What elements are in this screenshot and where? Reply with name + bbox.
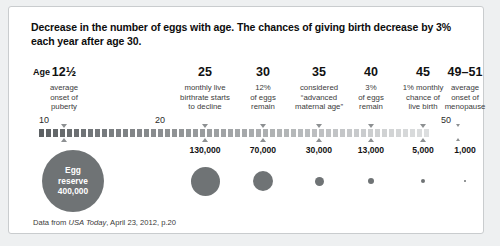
timeline-axis [39, 129, 431, 137]
axis-dash [305, 129, 310, 137]
axis-dash [193, 129, 198, 137]
axis-marker-up [368, 138, 374, 142]
source-prefix: Data from [33, 218, 68, 227]
axis-dash [60, 129, 65, 137]
axis-dash [403, 129, 408, 137]
age-caption: 3%of eggsremain [345, 83, 397, 112]
axis-dash [109, 129, 114, 137]
axis-marker-down [202, 124, 208, 128]
axis-marker-up [61, 138, 67, 142]
axis-dash [67, 129, 72, 137]
axis-dash [333, 129, 338, 137]
axis-marker-down [260, 124, 266, 128]
axis-dash [172, 129, 177, 137]
caption-line: 3% [345, 83, 397, 93]
egg-reserve-line2: reserve [58, 176, 88, 187]
axis-dash [382, 129, 387, 137]
axis-dash [340, 129, 345, 137]
axis-tick-label: 20 [155, 115, 165, 125]
axis-dash [130, 129, 135, 137]
axis-dash [151, 129, 156, 137]
age-value: 49–51 [434, 65, 496, 79]
axis-dash [74, 129, 79, 137]
egg-count-bubble [191, 167, 220, 196]
axis-dash [165, 129, 170, 137]
axis-marker-up [316, 138, 322, 142]
axis-dash [389, 129, 394, 137]
age-column: 25monthly livebirthrate startsto decline [164, 65, 246, 112]
axis-dash [116, 129, 121, 137]
age-column: 403%of eggsremain [345, 65, 397, 112]
axis-dash [410, 129, 415, 137]
axis-marker-down [368, 124, 374, 128]
axis-dash [158, 129, 163, 137]
egg-count-bubble [368, 178, 374, 184]
axis-dash [298, 129, 303, 137]
egg-count-value: 1,000 [430, 145, 500, 155]
caption-line: remain [345, 102, 397, 112]
axis-dash [424, 129, 429, 137]
caption-line: monthly live [164, 83, 246, 93]
axis-dash [46, 129, 51, 137]
caption-line: onset of [434, 93, 496, 103]
axis-dash [81, 129, 86, 137]
axis-dash [39, 129, 44, 137]
caption-line: onset of [31, 93, 97, 103]
egg-reserve-bubble: Egg reserve 400,000 [42, 150, 104, 212]
age-column: 49–51averageonset ofmenopause [434, 65, 496, 112]
egg-reserve-line3: 400,000 [58, 186, 88, 197]
axis-dash [102, 129, 107, 137]
infographic-card: Decrease in the number of eggs with age.… [8, 6, 484, 234]
axis-dash [326, 129, 331, 137]
axis-tick-label: 50 [441, 115, 451, 125]
caption-line: puberty [31, 102, 97, 112]
axis-marker-down [420, 124, 426, 128]
axis-dash [291, 129, 296, 137]
caption-line: menopause [434, 102, 496, 112]
axis-dash [137, 129, 142, 137]
age-column: 12½averageonset ofpuberty [31, 65, 97, 112]
axis-dash [123, 129, 128, 137]
axis-marker-up [260, 138, 266, 142]
axis-dash [284, 129, 289, 137]
axis-tick-label: 10 [39, 115, 49, 125]
axis-dash [347, 129, 352, 137]
axis-marker-down [316, 124, 322, 128]
axis-dash [221, 129, 226, 137]
axis-dash [235, 129, 240, 137]
axis-dash [228, 129, 233, 137]
age-caption: monthly livebirthrate startsto decline [164, 83, 246, 112]
caption-line: birthrate starts [164, 93, 246, 103]
axis-dash [354, 129, 359, 137]
axis-marker-up [420, 138, 426, 142]
egg-count-bubble [253, 171, 273, 191]
axis-dash [88, 129, 93, 137]
age-caption: averageonset ofpuberty [31, 83, 97, 112]
caption-line: to decline [164, 102, 246, 112]
axis-dash [375, 129, 380, 137]
source-note: Data from USA Today, April 23, 2012, p.2… [33, 218, 176, 227]
egg-reserve-line1: Egg [65, 165, 81, 176]
axis-dash [95, 129, 100, 137]
age-value: 12½ [31, 65, 97, 79]
axis-dash [249, 129, 254, 137]
axis-marker-down [456, 124, 460, 127]
axis-dash [207, 129, 212, 137]
axis-marker-up [202, 138, 208, 142]
caption-line: of eggs [345, 93, 397, 103]
axis-dash [242, 129, 247, 137]
axis-dash [312, 129, 317, 137]
axis-dash [319, 129, 324, 137]
axis-dash [368, 129, 373, 137]
source-publication: USA Today [68, 218, 106, 227]
axis-dash [214, 129, 219, 137]
axis-dash [417, 129, 422, 137]
age-value: 25 [164, 65, 246, 79]
axis-dash [361, 129, 366, 137]
source-suffix: , April 23, 2012, p.20 [106, 218, 176, 227]
axis-dash [186, 129, 191, 137]
axis-dash [179, 129, 184, 137]
axis-dash [270, 129, 275, 137]
axis-dash [144, 129, 149, 137]
caption-line: average [434, 83, 496, 93]
